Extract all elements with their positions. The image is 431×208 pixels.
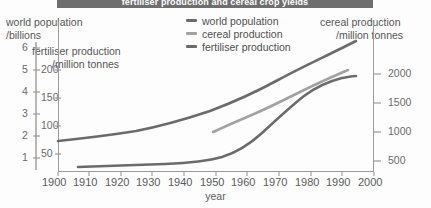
- left-axis-ticks: [33, 42, 40, 170]
- x-axis-title: year: [0, 190, 431, 202]
- x-tick-1990: 1990: [326, 176, 350, 188]
- x-tick-1980: 1980: [295, 176, 319, 188]
- chart-figure: fertiliser production and cereal crop yi…: [0, 0, 431, 208]
- x-tick-1970: 1970: [263, 176, 287, 188]
- x-tick-2000: 2000: [358, 176, 382, 188]
- series-fertiliser-production: [78, 76, 356, 167]
- x-tick-1930: 1930: [136, 176, 160, 188]
- x-tick-1950: 1950: [200, 176, 224, 188]
- x-tick-1910: 1910: [73, 176, 97, 188]
- x-tick-1940: 1940: [168, 176, 192, 188]
- x-tick-1900: 1900: [42, 176, 66, 188]
- x-tick-1920: 1920: [105, 176, 129, 188]
- x-tick-1960: 1960: [231, 176, 255, 188]
- right-axis-ticks: [374, 74, 381, 161]
